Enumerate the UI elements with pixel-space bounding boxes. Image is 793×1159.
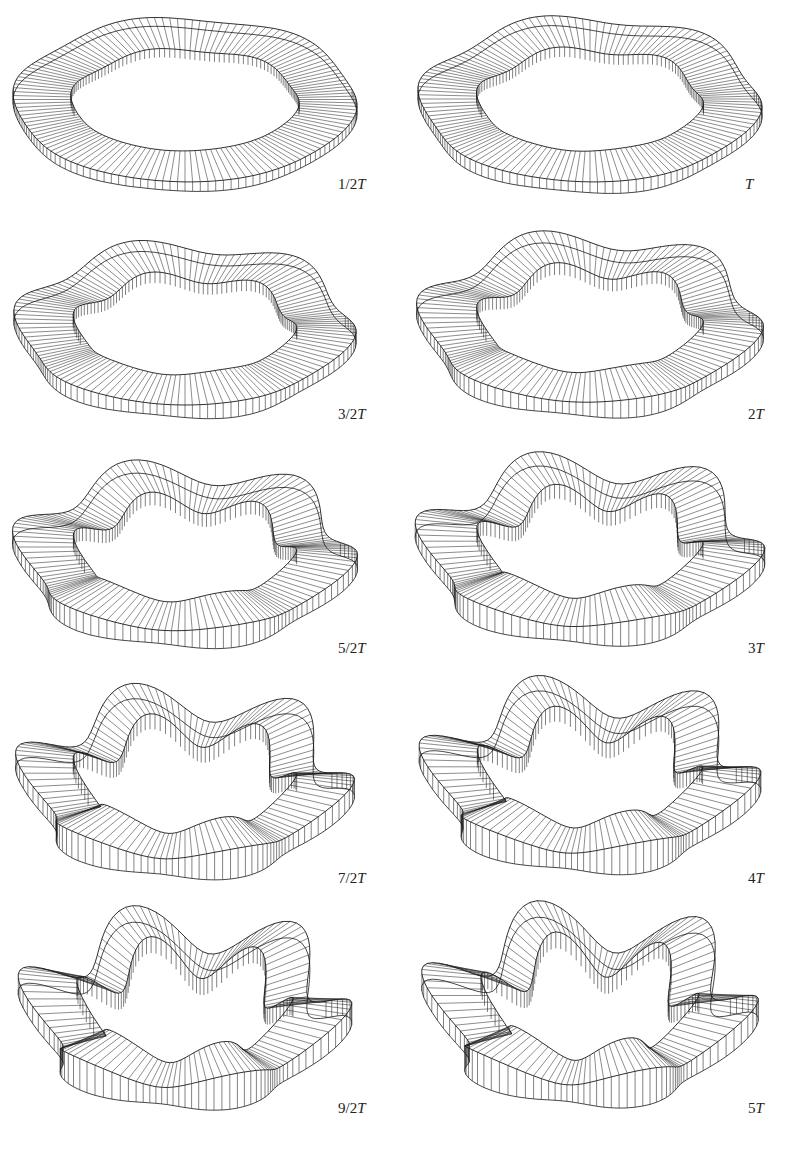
- wireframe-ring: [0, 0, 793, 1159]
- time-label: 3T: [748, 640, 764, 657]
- time-label-period: T: [756, 870, 764, 886]
- time-label-period: T: [357, 870, 365, 886]
- time-label-period: T: [357, 406, 365, 422]
- wireframe-ring: [0, 0, 793, 1159]
- wireframe-ring: [0, 0, 793, 1159]
- time-label: 3/2T: [338, 406, 366, 423]
- wireframe-ring: [0, 0, 793, 1159]
- time-label: 2T: [748, 406, 764, 423]
- wireframe-ring: [0, 0, 793, 1159]
- wireframe-ring: [0, 0, 793, 1159]
- time-label-multiplier: 7/2: [338, 870, 357, 886]
- time-label: T: [745, 176, 753, 193]
- time-label-multiplier: 3/2: [338, 406, 357, 422]
- time-label: 9/2T: [338, 1100, 366, 1117]
- time-label: 5T: [748, 1100, 764, 1117]
- time-label-period: T: [756, 1100, 764, 1116]
- time-label-period: T: [357, 176, 365, 192]
- time-label: 4T: [748, 870, 764, 887]
- time-label: 5/2T: [338, 640, 366, 657]
- wireframe-ring: [0, 0, 793, 1159]
- time-label-period: T: [357, 1100, 365, 1116]
- time-label-multiplier: 4: [748, 870, 756, 886]
- time-label-period: T: [745, 176, 753, 192]
- time-label: 7/2T: [338, 870, 366, 887]
- time-label-multiplier: 5: [748, 1100, 756, 1116]
- time-label: 1/2T: [338, 176, 366, 193]
- time-label-period: T: [756, 406, 764, 422]
- time-label-multiplier: 9/2: [338, 1100, 357, 1116]
- wireframe-ring: [0, 0, 793, 1159]
- time-label-multiplier: 2: [748, 406, 756, 422]
- time-label-period: T: [357, 640, 365, 656]
- time-label-multiplier: 5/2: [338, 640, 357, 656]
- wireframe-ring: [0, 0, 793, 1159]
- wireframe-ring-figure: 1/2TT3/2T2T5/2T3T7/2T4T9/2T5T: [0, 0, 793, 1159]
- time-label-period: T: [756, 640, 764, 656]
- time-label-multiplier: 3: [748, 640, 756, 656]
- time-label-multiplier: 1/2: [338, 176, 357, 192]
- wireframe-ring: [0, 0, 793, 1159]
